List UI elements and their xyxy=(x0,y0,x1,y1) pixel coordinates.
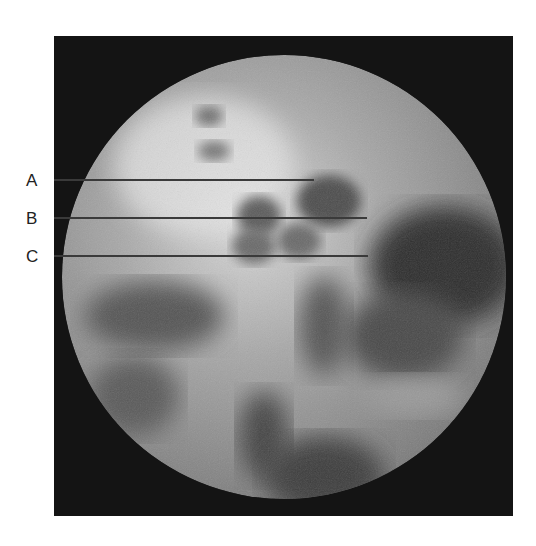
label-c: C xyxy=(26,248,38,265)
fluoroscopy-image xyxy=(54,36,513,516)
label-b: B xyxy=(26,210,37,227)
label-a: A xyxy=(26,172,37,189)
pointer-line-b xyxy=(54,217,367,219)
image-frame xyxy=(54,36,513,516)
annotated-figure: A B C xyxy=(0,0,536,546)
pointer-line-c xyxy=(54,255,368,257)
pointer-line-a xyxy=(54,179,314,181)
